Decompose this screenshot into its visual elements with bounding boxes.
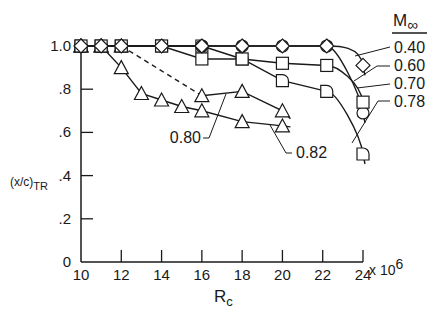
x-tick-label: 18 xyxy=(234,266,251,283)
legend-title: M∞ xyxy=(392,11,427,33)
x-scale-label: x 106 xyxy=(369,256,403,278)
leader-line xyxy=(357,84,390,88)
half-circle-marker xyxy=(276,75,288,87)
svg-text:M∞: M∞ xyxy=(393,11,418,33)
triangle-marker xyxy=(275,104,289,117)
x-tick-label: 10 xyxy=(73,266,90,283)
series-label: 0.40 xyxy=(394,39,425,56)
diamond-marker xyxy=(356,58,370,72)
y-tick-label: 0 xyxy=(63,253,71,270)
triangle-marker xyxy=(134,87,148,100)
series-label: 0.70 xyxy=(394,75,425,92)
x-tick-label: 14 xyxy=(153,266,170,283)
leader-line xyxy=(355,47,390,56)
y-tick-label: 1.0 xyxy=(50,37,71,54)
square-marker xyxy=(276,57,288,69)
x-tick-label: 12 xyxy=(113,266,130,283)
square-marker xyxy=(196,53,208,65)
series-label: 0.80 xyxy=(170,129,201,146)
half-circle-marker xyxy=(357,148,369,160)
y-tick-label: .8 xyxy=(58,80,71,97)
series-label: 0.82 xyxy=(296,144,327,161)
x-tick-label: 16 xyxy=(194,266,211,283)
triangle-marker xyxy=(235,84,249,97)
triangle-marker xyxy=(235,115,249,128)
triangle-marker xyxy=(175,99,189,112)
diamond-marker xyxy=(275,39,289,53)
square-marker xyxy=(357,96,369,108)
half-circle-marker xyxy=(321,85,333,97)
x-axis-label: Rc xyxy=(214,287,233,309)
y-axis-label: (x/c)TR xyxy=(10,175,48,192)
x-tick-label: 20 xyxy=(274,266,291,283)
y-tick-label: .4 xyxy=(58,167,71,184)
x-tick-label: 22 xyxy=(314,266,331,283)
y-tick-label: .2 xyxy=(58,210,71,227)
series-label: 0.78 xyxy=(394,93,425,110)
diamond-marker xyxy=(320,39,334,53)
y-tick-label: .6 xyxy=(58,123,71,140)
transition-location-chart: 10121416182022240.2.4.6.81.0 0.400.600.7… xyxy=(0,0,438,314)
series-label: 0.60 xyxy=(394,57,425,74)
square-marker xyxy=(321,59,333,71)
series-line xyxy=(81,46,365,123)
square-marker xyxy=(236,53,248,65)
series-markers xyxy=(74,39,370,160)
diamond-marker xyxy=(235,39,249,53)
triangle-marker xyxy=(155,93,169,106)
